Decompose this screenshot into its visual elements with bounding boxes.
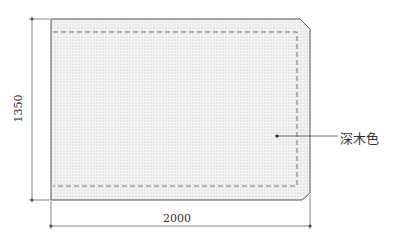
panel-outline [51, 19, 310, 200]
width-dimension-label: 2000 [163, 212, 191, 225]
drawing-canvas [0, 0, 395, 242]
height-dimension [29, 17, 50, 202]
material-callout-label: 深木色 [340, 128, 379, 147]
height-dimension-label: 1350 [12, 89, 25, 129]
